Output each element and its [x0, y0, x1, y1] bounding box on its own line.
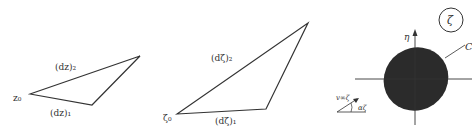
triangle-z: [30, 56, 140, 105]
velocity-label: v∞ζ: [336, 94, 351, 102]
diagram-canvas: z₀ (dz)₂ (dz)₁ ζ₀ (dζ)₂ (dζ)₁ ζ η C v∞ζ …: [0, 0, 472, 135]
label-z0: z₀: [13, 93, 22, 103]
contour-leader: [445, 45, 465, 58]
contour-label: C: [465, 41, 472, 52]
angle-arc: [351, 103, 352, 112]
eta-axis-arrow-icon: [413, 29, 418, 36]
plane-zeta: ζ η C v∞ζ αζ: [336, 8, 472, 125]
triangle-zeta: [177, 23, 308, 114]
velocity-arrow-icon: [353, 98, 359, 103]
label-zeta0: ζ₀: [163, 113, 172, 123]
label-dz2: (dz)₂: [55, 62, 77, 72]
label-dz1: (dz)₁: [50, 108, 71, 118]
plane-label: ζ: [447, 14, 454, 27]
label-dzeta2: (dζ)₂: [211, 53, 233, 63]
label-dzeta1: (dζ)₁: [215, 116, 236, 126]
eta-label: η: [404, 32, 410, 42]
angle-label: αζ: [358, 104, 368, 112]
